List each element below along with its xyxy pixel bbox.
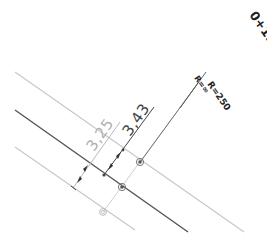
cad-drawing-canvas: 3,25 3,43 0+118.293 R=∞ R=250: [0, 0, 267, 247]
dimension-inner-node-upper: [122, 149, 125, 152]
station-label: 0+118.293: [247, 8, 267, 79]
upper-edge-line: [15, 72, 244, 232]
radius-right-label: R=250: [205, 79, 232, 112]
lower-edge-line: [15, 147, 135, 230]
dimension-inner-label: 3,43: [119, 100, 154, 139]
dimension-inner-node: [102, 173, 105, 176]
dimension-outer-label: 3,25: [83, 115, 118, 154]
